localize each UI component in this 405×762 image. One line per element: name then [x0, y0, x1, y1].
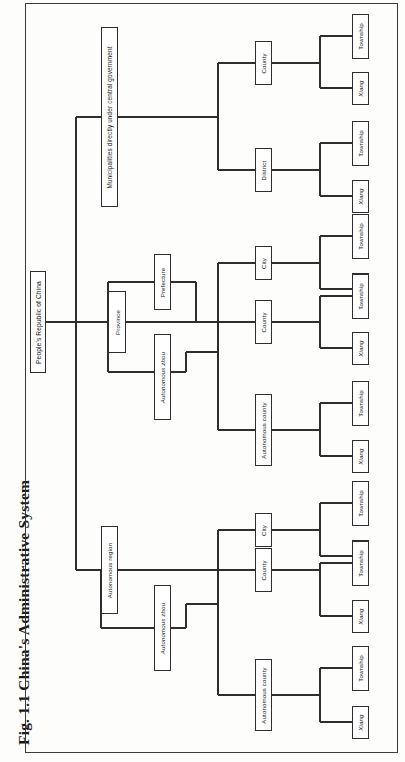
node-region-county[interactable]: County — [255, 548, 272, 592]
node-label: Township — [357, 283, 364, 310]
node-leaf-township[interactable]: Township — [352, 121, 369, 166]
node-label: Xiang — [357, 188, 364, 204]
node-label: Xiang — [357, 340, 364, 356]
node-autonomous-region[interactable]: Autonomous region — [101, 526, 118, 614]
node-label: Township — [357, 655, 364, 682]
node-leaf-xiang[interactable]: Xiang — [352, 600, 369, 633]
node-municipal-county[interactable]: County — [255, 41, 272, 85]
node-label: District — [260, 160, 267, 180]
node-label: Autonomous zhou — [159, 351, 166, 402]
node-label: Xiang — [357, 714, 364, 730]
node-label: Municipalities directly under central go… — [106, 46, 113, 188]
figure-page: Fig. 1.1 China's Administrative System — [0, 0, 405, 762]
node-province[interactable]: Province — [108, 291, 126, 353]
node-label: Township — [357, 223, 364, 250]
node-label: Autonomous county — [260, 402, 267, 458]
node-label: County — [260, 560, 267, 580]
node-municipalities[interactable]: Municipalities directly under central go… — [101, 27, 118, 207]
node-leaf-township[interactable]: Township — [352, 481, 369, 526]
node-leaf-xiang[interactable]: Xiang — [352, 440, 369, 473]
node-province-county[interactable]: County — [255, 300, 272, 344]
node-label: Xiang — [357, 608, 364, 624]
node-label: Autonomous region — [106, 542, 113, 597]
node-leaf-township[interactable]: Township — [352, 214, 369, 259]
node-province-autonomous-county[interactable]: Autonomous county — [255, 394, 272, 466]
node-leaf-xiang[interactable]: Xiang — [352, 72, 369, 105]
node-root-prc[interactable]: People's Republic of China — [30, 271, 46, 373]
node-label: Township — [357, 23, 364, 50]
node-label: Autonomous county — [260, 667, 267, 723]
node-label: County — [260, 312, 267, 332]
node-label: People's Republic of China — [35, 281, 42, 364]
node-label: City — [260, 524, 267, 535]
node-autonomous-zhou-province[interactable]: Autonomous zhou — [154, 334, 171, 420]
node-autonomous-zhou-region[interactable]: Autonomous zhou — [154, 585, 171, 671]
node-leaf-xiang[interactable]: Xiang — [352, 180, 369, 213]
node-label: Province — [114, 310, 121, 335]
node-leaf-township[interactable]: Township — [352, 381, 369, 426]
node-region-city[interactable]: City — [255, 513, 272, 547]
node-municipal-district[interactable]: District — [255, 148, 272, 192]
node-label: County — [260, 53, 267, 73]
node-label: Township — [357, 490, 364, 517]
node-label: Xiang — [357, 80, 364, 96]
node-label: Prefecture — [159, 267, 166, 297]
node-region-autonomous-county[interactable]: Autonomous county — [255, 659, 272, 731]
node-leaf-township[interactable]: Township — [352, 274, 369, 319]
node-leaf-township[interactable]: Township — [352, 646, 369, 691]
node-province-city[interactable]: City — [255, 246, 272, 280]
connector-lines — [0, 0, 405, 762]
node-label: Township — [357, 390, 364, 417]
node-label: Township — [357, 550, 364, 577]
node-label: Autonomous zhou — [159, 602, 166, 653]
node-prefecture[interactable]: Prefecture — [154, 254, 171, 310]
node-label: Xiang — [357, 448, 364, 464]
node-leaf-xiang[interactable]: Xiang — [352, 706, 369, 739]
node-leaf-township[interactable]: Township — [352, 14, 369, 59]
node-leaf-township[interactable]: Township — [352, 541, 369, 586]
node-leaf-xiang[interactable]: Xiang — [352, 332, 369, 365]
node-label: City — [260, 257, 267, 268]
node-label: Township — [357, 130, 364, 157]
